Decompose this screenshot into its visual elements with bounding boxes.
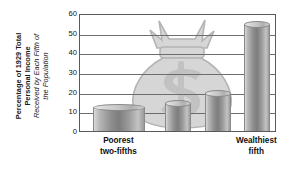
x-axis-label-line1: Poorest	[103, 136, 133, 145]
plot-area	[79, 14, 276, 132]
y-axis-title-italic-line1: Received by Each Fifth of	[32, 34, 41, 118]
x-axis-label-line2: fifth	[211, 147, 284, 158]
y-axis-title-bold: Percentage of 1929 Total Personal Income	[14, 6, 32, 146]
y-tick-label: 60	[59, 10, 77, 18]
y-tick-label: 40	[59, 49, 77, 57]
y-tick-label: 30	[59, 69, 77, 77]
y-tick-label: 20	[59, 89, 77, 97]
bar-top-cap	[93, 104, 145, 111]
y-axis-title-bold-line2: Personal Income	[23, 46, 32, 105]
bar-body	[205, 94, 231, 131]
x-axis-label: Pooresttwo-fifths	[73, 136, 163, 157]
y-tick-label: 0	[59, 128, 77, 136]
x-axis-label: Wealthiestfifth	[211, 136, 284, 157]
x-axis-label-line1: Wealthiest	[236, 136, 277, 145]
y-tick-label: 10	[59, 108, 77, 116]
bar-body	[165, 103, 191, 131]
chart-figure: Percentage of 1929 Total Personal Income…	[0, 0, 284, 169]
bar	[93, 107, 145, 131]
bar-body	[93, 107, 145, 131]
y-axis-title-italic-line2: the Population	[41, 52, 50, 99]
x-axis-labels: Pooresttwo-fifthsWealthiestfifth	[79, 134, 276, 168]
y-axis-title-bold-line1: Percentage of 1929 Total	[14, 33, 23, 120]
bar	[244, 25, 270, 131]
x-axis-label-line2: two-fifths	[73, 147, 163, 158]
bar	[205, 94, 231, 131]
y-axis-title-italic: Received by Each Fifth of the Population	[32, 6, 50, 146]
y-tick-label: 50	[59, 30, 77, 38]
y-axis-title: Percentage of 1929 Total Personal Income…	[0, 0, 56, 152]
bar	[165, 103, 191, 131]
bar-body	[244, 25, 270, 131]
